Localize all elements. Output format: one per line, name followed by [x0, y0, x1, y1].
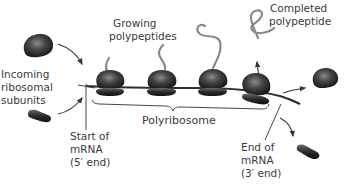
ribosome-2: [147, 70, 176, 96]
polyribosome-diagram: Incoming ribosomal subunits Start of mRN…: [0, 0, 349, 185]
polypeptide-3: [198, 25, 221, 68]
incoming-label: Incoming ribosomal subunits: [1, 68, 56, 106]
incoming-small-subunit: [28, 110, 51, 123]
released-large-subunit: [313, 68, 338, 88]
incoming-large-arrow: [58, 44, 82, 64]
released-small-arrow: [280, 118, 293, 136]
polyribosome-bracket: [92, 100, 269, 111]
polypeptide-1: [106, 58, 109, 72]
end-pointer: [265, 104, 281, 140]
growing-polypeptides-label: Growing polypeptides: [109, 17, 177, 42]
released-large-arrow: [283, 88, 305, 93]
incoming-small-arrow: [58, 98, 82, 114]
completed-polypeptide-label: Completed polypeptide: [269, 2, 331, 27]
polyribosome-label: Polyribosome: [142, 114, 216, 127]
polypeptide-2: [159, 45, 165, 69]
end-label: End of mRNA (3′ end): [241, 141, 281, 179]
start-label: Start of mRNA (5′ end): [70, 130, 112, 168]
incoming-large-subunit: [24, 34, 53, 57]
ribosome-4: [242, 73, 271, 104]
ribosome-3: [198, 69, 227, 96]
ribosome-1: [96, 70, 124, 96]
released-small-subunit: [297, 145, 320, 159]
